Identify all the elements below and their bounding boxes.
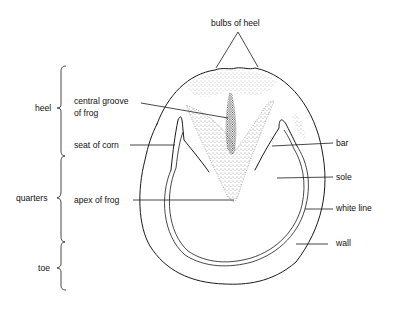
right-bar-inner [284,130,294,149]
label-bulbs-of-heel: bulbs of heel [211,18,260,28]
region-toe-label: toe [38,263,50,273]
region-heel-label: heel [35,103,51,113]
bracket-quarters [57,156,65,242]
bracket-heel [57,66,66,156]
label-sole: sole [336,172,352,182]
region-quarters-label: quarters [16,193,48,203]
hoof-diagram: bulbs of heel heel quarters toe central … [0,0,395,309]
bulbs-leader [216,32,258,68]
bracket-toe [57,242,66,290]
label-wall: wall [335,238,351,248]
label-central-groove-line2: of frog [74,108,99,118]
central-groove-leader [141,103,228,118]
bar-leader [272,143,333,146]
label-white-line: white line [335,203,372,213]
label-central-groove-line1: central groove [74,96,129,106]
label-bar: bar [336,138,349,148]
label-seat-of-corn: seat of corn [74,140,119,150]
heel-shading-right [292,112,306,142]
central-groove [226,93,237,155]
label-apex-of-frog: apex of frog [74,195,120,205]
left-bar-inner [176,132,183,168]
